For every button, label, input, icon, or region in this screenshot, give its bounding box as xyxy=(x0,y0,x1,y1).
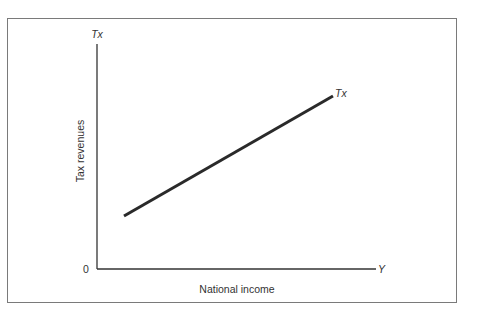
series-label: Tx xyxy=(335,87,347,99)
y-axis-label: Tax revenues xyxy=(74,120,86,182)
tax-revenue-chart: Tx Tx Y 0 National income Tax revenues xyxy=(0,0,482,320)
tax-function-line xyxy=(124,96,333,216)
x-axis-symbol: Y xyxy=(378,263,386,275)
y-axis-symbol: Tx xyxy=(91,28,103,40)
origin-label: 0 xyxy=(83,263,89,275)
x-axis-label: National income xyxy=(199,283,274,295)
